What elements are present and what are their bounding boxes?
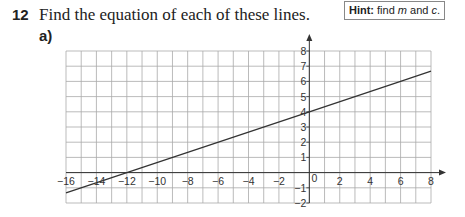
y-tick-label: 7 (300, 60, 306, 72)
y-tick-label: 3 (300, 121, 306, 133)
x-tick-label: 2 (337, 175, 343, 187)
y-tick-label: 5 (300, 91, 306, 103)
x-tick-label: 4 (367, 175, 373, 187)
y-tick-label: 2 (300, 136, 306, 148)
x-tick-label: −8 (182, 175, 194, 187)
y-tick-label: −2 (294, 197, 306, 209)
y-tick-label: 1 (300, 151, 306, 163)
x-tick-label: −4 (243, 175, 255, 187)
x-tick-label: 6 (398, 175, 404, 187)
x-tick-label: −12 (118, 175, 136, 187)
x-tick-label: −6 (212, 175, 224, 187)
coordinate-graph: −16−14−12−10−8−6−4−202468−2−112345678 (0, 0, 465, 217)
y-tick-label: 8 (300, 45, 306, 57)
x-tick-label: −10 (148, 175, 166, 187)
x-tick-label: 8 (428, 175, 434, 187)
y-axis-arrow-icon (306, 34, 312, 41)
y-tick-label: 4 (300, 106, 306, 118)
x-axis-arrow-icon (439, 170, 446, 176)
x-tick-label: −2 (273, 175, 285, 187)
y-tick-label: 6 (300, 75, 306, 87)
x-tick-label: 0 (311, 172, 317, 184)
y-tick-label: −1 (294, 182, 306, 194)
x-tick-label: −16 (57, 175, 75, 187)
